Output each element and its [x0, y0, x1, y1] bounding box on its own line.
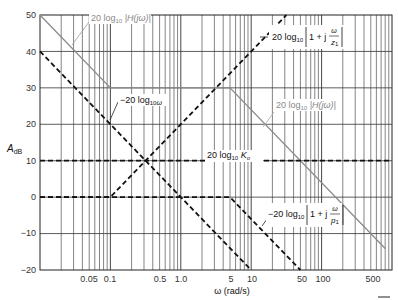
- annotation-Ko: 20 log10 Ko: [207, 150, 251, 161]
- leader-H-top: [72, 22, 89, 45]
- y-tick: 50: [26, 10, 36, 20]
- ann-mid: 1 + j: [310, 209, 327, 219]
- x-tick: 1.0: [175, 274, 188, 284]
- ann-sub: 10: [298, 214, 305, 220]
- bode-plot: 50 40 30 20 10 0 −10 −20 0.05 0.1 0.5 1.…: [0, 0, 398, 300]
- ann-text: −20 log: [268, 209, 298, 219]
- x-tick: 500: [365, 274, 380, 284]
- y-tick: 10: [26, 156, 36, 166]
- x-tick: 10: [247, 274, 257, 284]
- ann-mid: 1 + j: [309, 32, 326, 42]
- ann-tail: ω: [156, 99, 162, 106]
- ann-text: 20 log: [272, 32, 297, 42]
- ann-tail: |H(jω)|: [307, 100, 336, 110]
- ann-text: −20 log: [120, 95, 150, 105]
- y-axis-label-sub: dB: [14, 148, 23, 155]
- y-tick: 20: [26, 119, 36, 129]
- annotations: 20 log10 |H(jω)| −20 log10ω 20 log10 1 +…: [89, 11, 345, 227]
- series-group: [40, 15, 392, 270]
- x-tick: 50: [297, 274, 307, 284]
- y-tick: 0: [31, 192, 36, 202]
- ann-num: ω: [332, 205, 338, 212]
- leader-omega: [110, 102, 118, 120]
- x-tick: 5: [228, 274, 233, 284]
- ann-text: 20 log: [91, 13, 116, 23]
- x-axis-ticks: 0.05 0.1 0.5 1.0 5 10 50 100 500: [80, 274, 380, 284]
- x-tick: 100: [315, 274, 330, 284]
- y-axis-label: AdB: [6, 143, 23, 155]
- ann-sub: 10: [297, 37, 304, 43]
- y-axis-ticks: 50 40 30 20 10 0 −10 −20: [21, 10, 36, 275]
- x-tick: 0.5: [154, 274, 167, 284]
- x-tick: 0.1: [104, 274, 117, 284]
- y-tick: 30: [26, 83, 36, 93]
- x-tick: 0.05: [80, 274, 98, 284]
- ann-tail: |H(jω)|: [122, 13, 151, 23]
- ann-text: 20 log: [276, 100, 301, 110]
- ann-text: 20 log: [207, 150, 232, 160]
- plot-frame: [40, 15, 392, 270]
- series-line-2: [40, 15, 286, 197]
- y-tick: −10: [21, 228, 36, 238]
- x-axis-label: ω (rad/s): [214, 286, 250, 296]
- y-tick: −20: [21, 265, 36, 275]
- y-tick: 40: [26, 47, 36, 57]
- ann-num: ω: [331, 27, 337, 34]
- grid: [40, 15, 392, 270]
